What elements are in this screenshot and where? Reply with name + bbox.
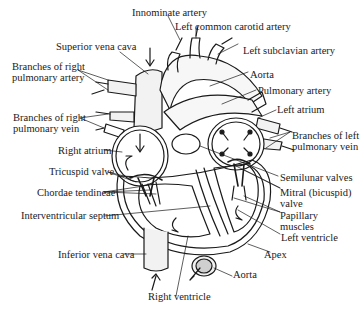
label-line: pulmonary artery: [12, 72, 85, 83]
label-chordae-tendineae: Chordae tendineae: [37, 187, 115, 198]
label-branches-left-pulmonary-vein: Branches of left pulmonary vein: [292, 130, 359, 152]
label-line: pulmonary vein: [292, 141, 359, 152]
ivc-arrow: [152, 274, 160, 290]
label-right-ventricle: Right ventricle: [148, 291, 211, 302]
label-superior-vena-cava: Superior vena cava: [56, 41, 136, 52]
label-innominate-artery: Innominate artery: [132, 7, 207, 18]
label-aorta-top: Aorta: [250, 69, 274, 80]
label-semilunar-valves: Semilunar valves: [280, 172, 353, 183]
label-aorta-bottom: Aorta: [233, 269, 257, 280]
label-line: Branches of left: [292, 130, 359, 141]
label-left-ventricle: Left ventricle: [281, 232, 338, 243]
label-tricuspid-valve: Tricuspid valve: [49, 166, 114, 177]
superior-vena-cava-shape: [134, 70, 162, 131]
label-papillary-muscles: Papillary muscles: [280, 210, 318, 232]
svc-arrow: [146, 48, 154, 66]
label-inferior-vena-cava: Inferior vena cava: [58, 249, 134, 260]
label-apex: Apex: [264, 249, 287, 260]
label-left-subclavian-artery: Left subclavian artery: [243, 45, 335, 56]
label-left-common-carotid-artery: Left common carotid artery: [175, 21, 291, 32]
label-interventricular-septum: Interventricular septum: [21, 210, 119, 221]
label-line: Branches of right: [12, 61, 85, 72]
label-line: Branches of right: [13, 112, 86, 123]
label-line: muscles: [280, 221, 318, 232]
right-pulmonary-vein-upper: [110, 112, 134, 122]
inferior-vena-cava-shape: [144, 228, 168, 271]
label-line: Papillary: [280, 210, 318, 221]
semilunar-valve-shape: [172, 134, 200, 154]
label-mitral-valve: Mitral (bicuspid) valve: [280, 187, 351, 209]
label-right-atrium: Right atrium: [58, 145, 111, 156]
label-branches-right-pulmonary-artery: Branches of right pulmonary artery: [12, 61, 85, 83]
label-line: valve: [280, 198, 351, 209]
label-pulmonary-artery: Pulmonary artery: [258, 85, 331, 96]
label-line: Mitral (bicuspid): [280, 187, 351, 198]
label-branches-right-pulmonary-vein: Branches of right pulmonary vein: [13, 112, 86, 134]
label-line: pulmonary vein: [13, 123, 86, 134]
heart-diagram: Innominate artery Left common carotid ar…: [0, 0, 362, 310]
right-pulmonary-artery-branches: [108, 80, 136, 96]
label-left-atrium: Left atrium: [277, 104, 325, 115]
